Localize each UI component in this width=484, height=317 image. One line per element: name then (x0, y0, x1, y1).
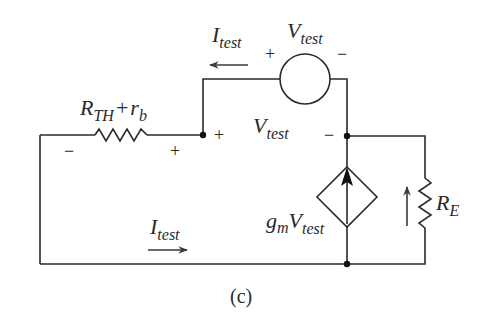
series-resistor-label: RTH+rb (79, 95, 147, 124)
node-minus: − (324, 125, 334, 145)
emitter-resistor-label: RE (435, 190, 459, 219)
test-source-label: Vtest (287, 18, 323, 47)
test-voltage-source-icon (280, 54, 330, 104)
series-resistor-icon (95, 129, 147, 141)
node-plus: + (214, 125, 224, 145)
series-resistor-minus: − (64, 141, 74, 161)
emitter-resistor-icon (419, 175, 431, 230)
series-resistor-plus: + (170, 141, 180, 161)
dependent-current-source-icon (317, 167, 377, 227)
top-current-label: Itest (211, 22, 242, 51)
dependent-source-label: gmVtest (266, 208, 325, 237)
bottom-current-label: Itest (149, 214, 180, 243)
test-source-plus: + (265, 44, 275, 64)
circuit-diagram: RTH+rb − + Vtest + − Itest + Vtest − gmV… (0, 0, 484, 317)
node-bottom (344, 261, 350, 267)
test-source-minus: − (337, 44, 347, 64)
figure-caption: (c) (230, 285, 252, 308)
node-voltage-label: Vtest (253, 113, 289, 142)
node-left (200, 132, 206, 138)
node-right (344, 133, 350, 139)
